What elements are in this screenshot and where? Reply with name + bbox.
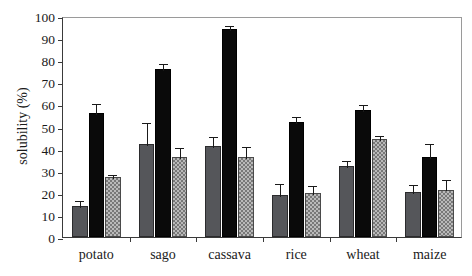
y-axis-tick — [58, 106, 63, 107]
error-bar — [313, 186, 314, 195]
error-bar-cap — [175, 148, 184, 149]
error-bar-cap — [425, 144, 434, 145]
error-bar-cap — [442, 180, 451, 181]
x-axis-category-label: sago — [150, 247, 176, 263]
x-axis-category-label: potato — [79, 247, 114, 263]
x-axis-tick — [196, 237, 197, 242]
error-bar — [246, 147, 247, 159]
y-axis-tick-label: 80 — [42, 54, 56, 70]
error-bar-cap — [92, 104, 101, 105]
error-bar-cap — [225, 26, 234, 27]
y-axis-tick — [58, 129, 63, 130]
y-axis-tick — [58, 62, 63, 63]
error-bar-cap — [342, 161, 351, 162]
y-axis-tick — [58, 151, 63, 152]
error-bar-cap — [359, 105, 368, 106]
x-axis-tick — [396, 237, 397, 242]
y-axis-tick-label: 70 — [42, 76, 56, 92]
error-bar-cap — [242, 147, 251, 148]
error-bar — [213, 137, 214, 148]
y-axis-tick-label: 100 — [35, 10, 55, 26]
error-bar — [96, 104, 97, 115]
bar — [205, 146, 221, 237]
bar-chart: solubility (%) 0102030405060708090100pot… — [0, 0, 472, 276]
bar — [438, 190, 454, 238]
error-bar-cap — [409, 185, 418, 186]
bar — [105, 177, 121, 237]
bar — [355, 110, 371, 237]
bar — [238, 157, 254, 237]
y-axis-title: solubility (%) — [15, 51, 31, 201]
y-axis-tick — [58, 173, 63, 174]
x-axis-category-label: cassava — [208, 247, 251, 263]
error-bar-cap — [308, 186, 317, 187]
bar — [305, 193, 321, 237]
error-bar — [446, 180, 447, 191]
error-bar-cap — [292, 117, 301, 118]
bar — [405, 192, 421, 237]
bar — [372, 139, 388, 237]
error-bar — [413, 185, 414, 194]
error-bar-cap — [75, 201, 84, 202]
y-axis-tick-label: 30 — [42, 165, 56, 181]
error-bar — [280, 184, 281, 197]
y-axis-tick-label: 60 — [42, 98, 56, 114]
error-bar — [147, 123, 148, 146]
plot-area: 0102030405060708090100potatosagocassavar… — [62, 17, 462, 238]
y-axis-tick-label: 40 — [42, 143, 56, 159]
error-bar — [430, 144, 431, 159]
error-bar — [180, 148, 181, 159]
bar — [89, 113, 105, 237]
x-axis-category-label: wheat — [346, 247, 379, 263]
bar — [139, 144, 155, 237]
y-axis-tick — [58, 84, 63, 85]
error-bar-cap — [142, 123, 151, 124]
y-axis-tick — [58, 195, 63, 196]
y-axis-tick-label: 20 — [42, 187, 56, 203]
y-axis-tick — [58, 239, 63, 240]
bar — [272, 195, 288, 237]
x-axis-tick — [263, 237, 264, 242]
error-bar-cap — [375, 136, 384, 137]
y-axis-tick — [58, 40, 63, 41]
x-axis-tick — [130, 237, 131, 242]
bar — [289, 122, 305, 237]
x-axis-category-label: maize — [413, 247, 446, 263]
bar — [422, 157, 438, 237]
error-bar — [347, 161, 348, 169]
x-axis-category-label: rice — [286, 247, 307, 263]
y-axis-tick-label: 0 — [48, 231, 55, 247]
bar — [72, 206, 88, 237]
error-bar-cap — [209, 137, 218, 138]
bar — [155, 69, 171, 237]
y-axis-tick — [58, 18, 63, 19]
bar — [172, 157, 188, 237]
y-axis-tick — [58, 217, 63, 218]
error-bar-cap — [159, 64, 168, 65]
y-axis-tick-label: 50 — [42, 121, 56, 137]
bar — [339, 166, 355, 237]
error-bar-cap — [275, 184, 284, 185]
y-axis-tick-label: 90 — [42, 32, 56, 48]
bar — [222, 29, 238, 237]
y-axis-tick-label: 10 — [42, 209, 56, 225]
error-bar-cap — [108, 175, 117, 176]
x-axis-tick — [330, 237, 331, 242]
